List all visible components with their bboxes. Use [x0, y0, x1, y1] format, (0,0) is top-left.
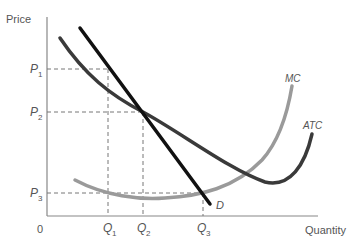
atc-label: ATC: [302, 120, 323, 131]
svg-text:1: 1: [38, 70, 43, 79]
demand-label: D: [216, 199, 224, 211]
svg-text:Q: Q: [103, 221, 112, 235]
svg-text:2: 2: [146, 229, 151, 238]
svg-text:3: 3: [38, 194, 43, 203]
p1-label: P 1: [30, 62, 43, 79]
svg-text:Q: Q: [197, 221, 206, 235]
svg-text:P: P: [30, 186, 38, 200]
q2-label: Q 2: [137, 221, 151, 238]
svg-text:Q: Q: [137, 221, 146, 235]
demand-line: [80, 28, 210, 204]
q3-label: Q 3: [197, 221, 211, 238]
origin-label: 0: [37, 223, 43, 235]
p3-label: P 3: [30, 186, 43, 203]
svg-text:1: 1: [112, 229, 117, 238]
svg-text:P: P: [30, 105, 38, 119]
mc-label: MC: [285, 73, 301, 84]
x-axis-label: Quantity: [305, 224, 346, 236]
svg-text:P: P: [30, 62, 38, 76]
y-axis-label: Price: [6, 13, 31, 25]
q1-label: Q 1: [103, 221, 117, 238]
atc-curve: [60, 38, 312, 183]
svg-text:3: 3: [206, 229, 211, 238]
chart: Price Quantity 0 P 1 P 2 P 3 Q 1 Q 2 Q 3…: [0, 0, 354, 246]
svg-text:2: 2: [38, 113, 43, 122]
p2-label: P 2: [30, 105, 43, 122]
